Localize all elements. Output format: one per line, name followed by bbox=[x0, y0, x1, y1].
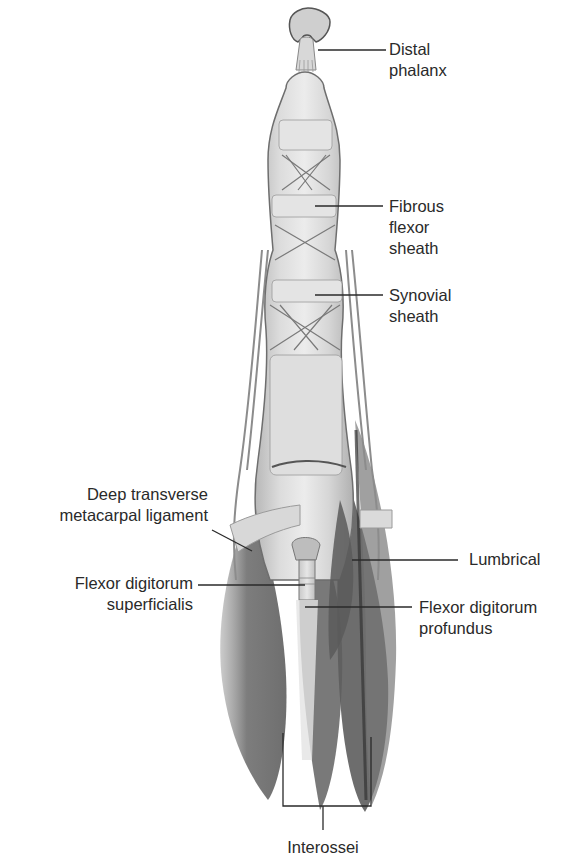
label-flexor-digitorum-profundus: Flexor digitorum profundus bbox=[419, 597, 537, 639]
label-lumbrical: Lumbrical bbox=[469, 549, 541, 570]
label-flexor-digitorum-superficialis: Flexor digitorum superficialis bbox=[75, 573, 193, 615]
label-fibrous-flexor-sheath: Fibrous flexor sheath bbox=[389, 196, 444, 259]
label-interossei: Interossei bbox=[273, 837, 373, 858]
distal-phalanx-shape bbox=[289, 8, 330, 72]
finger-anatomy-illustration bbox=[0, 0, 565, 863]
label-synovial-sheath: Synovial sheath bbox=[389, 285, 451, 327]
label-deep-transverse-metacarpal-ligament: Deep transverse metacarpal ligament bbox=[59, 484, 208, 526]
label-distal-phalanx: Distal phalanx bbox=[389, 39, 447, 81]
